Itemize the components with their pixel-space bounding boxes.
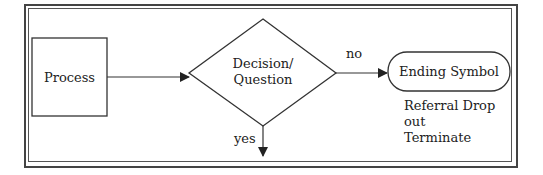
edge-label-yes: yes xyxy=(234,131,256,147)
decision-label-line1: Decision/ xyxy=(213,56,313,72)
annotation-line2: out xyxy=(404,114,425,130)
annotation-line3: Terminate xyxy=(404,130,471,146)
decision-label-line2: Question xyxy=(213,72,313,88)
annotation-line1: Referral Drop xyxy=(404,98,495,114)
process-label: Process xyxy=(32,70,107,86)
ending-symbol-label: Ending Symbol xyxy=(388,64,510,80)
edge-label-no: no xyxy=(346,46,362,62)
